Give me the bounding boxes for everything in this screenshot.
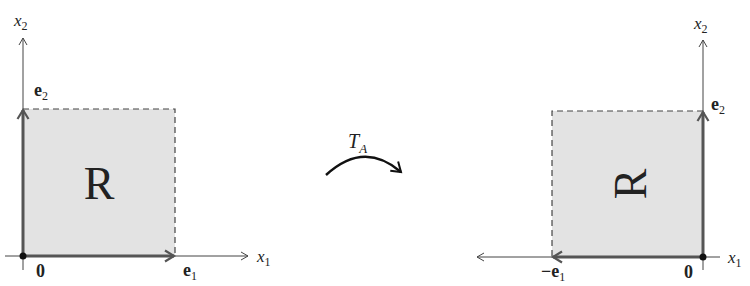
transform-label: TA <box>348 130 367 156</box>
linear-transformation-diagram: x2 x1 e2 e1 0 R TA x2 x1 e2 −e1 0 R <box>0 0 750 286</box>
x2-axis-label-right: x2 <box>693 14 708 36</box>
x1-axis-label-right: x1 <box>727 248 742 270</box>
transform-arrow: TA <box>326 130 401 175</box>
e2-label-right: e2 <box>711 94 725 117</box>
neg-e1-label-right: −e1 <box>541 261 565 284</box>
origin-dot-left <box>20 253 27 260</box>
curved-arrow-icon <box>326 157 401 175</box>
e2-label-left: e2 <box>34 80 48 103</box>
left-panel: x2 x1 e2 e1 0 R <box>5 11 271 283</box>
x1-axis-label-left: x1 <box>256 247 271 269</box>
x2-axis-label-left: x2 <box>13 11 28 33</box>
origin-dot-right <box>700 254 707 261</box>
right-panel: x2 x1 e2 −e1 0 R <box>477 14 742 284</box>
origin-label-left: 0 <box>36 261 45 281</box>
e1-label-left: e1 <box>183 260 197 283</box>
region-label-right-rotated: R <box>605 168 656 199</box>
region-label-left: R <box>84 158 115 209</box>
origin-label-right: 0 <box>684 262 693 282</box>
